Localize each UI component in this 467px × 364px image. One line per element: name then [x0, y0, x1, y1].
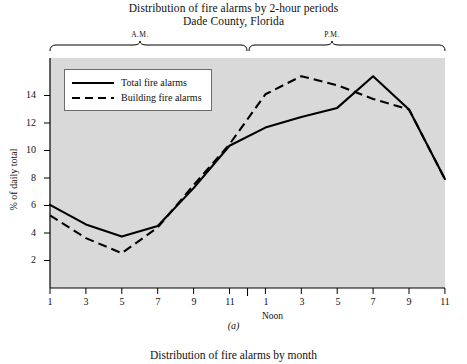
y-tick-label-2: 2: [14, 254, 36, 265]
y-tick-label-14: 14: [14, 89, 36, 100]
x-tick-label-am-9: 9: [183, 296, 205, 307]
legend-entry-building: Building fire alarms: [72, 90, 202, 105]
noon-marker-line: [248, 288, 261, 296]
x-tick-label-pm-11: 11: [434, 296, 456, 307]
period-brace-row: A.M. P.M.: [0, 30, 467, 58]
brace-label-pm: P.M.: [312, 30, 352, 39]
x-tick-label-pm-5: 5: [327, 296, 349, 307]
legend-entry-total: Total fire alarms: [72, 75, 202, 90]
chart-legend: Total fire alarms Building fire alarms: [64, 69, 212, 111]
x-tick-label-am-3: 3: [75, 296, 97, 307]
x-tick-label-am-7: 7: [147, 296, 169, 307]
legend-swatch-dashed-icon: [72, 93, 114, 103]
brace-label-am: A.M.: [120, 30, 160, 39]
figure-title-line-1: Distribution of fire alarms by 2-hour pe…: [0, 2, 467, 15]
x-tick-label-am-1: 1: [39, 296, 61, 307]
x-tick-label-pm-3: 3: [291, 296, 313, 307]
x-tick-label-pm-1: 1: [255, 296, 277, 307]
period-braces-svg: [0, 41, 467, 57]
y-tick-label-6: 6: [14, 199, 36, 210]
x-tick-label-am-11: 11: [219, 296, 241, 307]
legend-label-building: Building fire alarms: [121, 92, 202, 103]
y-tick-label-8: 8: [14, 172, 36, 183]
x-tick-label-pm-7: 7: [362, 296, 384, 307]
y-tick-label-12: 12: [14, 117, 36, 128]
y-tick-label-10: 10: [14, 144, 36, 155]
y-tick-marks: [44, 96, 50, 261]
x-tick-label-pm-9: 9: [398, 296, 420, 307]
figure-caption: (a): [0, 320, 467, 331]
y-tick-label-4: 4: [14, 227, 36, 238]
figure-title-line-2: Dade County, Florida: [0, 15, 467, 28]
figure-title: Distribution of fire alarms by 2-hour pe…: [0, 2, 467, 28]
chart-plot-area: % of daily total 2 4 6 8 10 12 14 1 3 5 …: [0, 56, 467, 296]
x-tick-label-am-5: 5: [111, 296, 133, 307]
next-figure-title: Distribution of fire alarms by month: [0, 349, 467, 361]
legend-swatch-solid-icon: [72, 78, 114, 88]
legend-label-total: Total fire alarms: [121, 77, 187, 88]
